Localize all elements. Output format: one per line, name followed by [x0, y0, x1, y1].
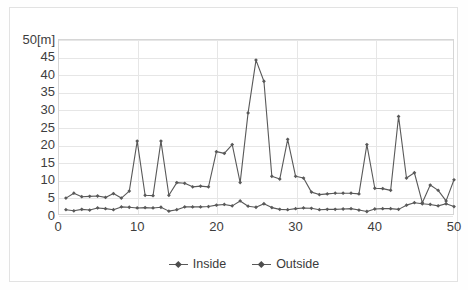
data-point-marker [88, 194, 92, 198]
data-point-marker [333, 191, 337, 195]
x-tick-label: 30 [288, 220, 302, 233]
data-point-marker [80, 195, 84, 199]
data-point-marker [436, 204, 440, 208]
data-point-marker [365, 143, 369, 147]
data-point-marker [135, 206, 139, 210]
data-point-marker [294, 207, 298, 211]
data-point-marker [270, 206, 274, 210]
series-line [66, 60, 454, 203]
chart-frame: 05101520253035404550[m] 01020304050 Insi… [9, 7, 458, 282]
legend-marker-outside-icon [252, 260, 271, 269]
plot-area-wrapper [58, 39, 454, 215]
data-point-marker [262, 79, 266, 83]
data-point-marker [357, 208, 361, 212]
data-point-marker [270, 174, 274, 178]
data-point-marker [310, 206, 314, 210]
data-point-marker [72, 209, 76, 213]
data-point-marker [278, 207, 282, 211]
data-point-marker [112, 208, 116, 212]
data-point-marker [278, 177, 282, 181]
data-point-marker [199, 184, 203, 188]
data-point-marker [207, 185, 211, 189]
data-point-marker [88, 208, 92, 212]
data-point-marker [262, 202, 266, 206]
series-lines [58, 39, 454, 215]
data-point-marker [127, 205, 131, 209]
data-point-marker [207, 205, 211, 209]
data-point-marker [389, 207, 393, 211]
y-tick-label: 40 [41, 68, 55, 81]
series-inside [64, 199, 456, 213]
data-point-marker [317, 208, 321, 212]
data-point-marker [215, 203, 219, 207]
data-point-marker [373, 207, 377, 211]
data-point-marker [286, 208, 290, 212]
data-point-marker [254, 58, 258, 62]
y-tick-label: 50[m] [22, 33, 55, 46]
data-point-marker [325, 207, 329, 211]
data-point-marker [357, 192, 361, 196]
data-point-marker [428, 203, 432, 207]
data-point-marker [452, 178, 456, 182]
data-point-marker [151, 194, 155, 198]
y-tick-label: 45 [41, 50, 55, 63]
data-point-marker [104, 207, 108, 211]
y-tick-label: 15 [41, 156, 55, 169]
data-point-marker [183, 205, 187, 209]
data-point-marker [286, 137, 290, 141]
data-point-marker [238, 181, 242, 185]
y-tick-label: 10 [41, 173, 55, 186]
data-point-marker [389, 188, 393, 192]
data-point-marker [349, 207, 353, 211]
data-point-marker [135, 139, 139, 143]
data-point-marker [64, 208, 68, 212]
y-tick-label: 25 [41, 121, 55, 134]
data-point-marker [96, 206, 100, 210]
data-point-marker [373, 186, 377, 190]
y-tick-label: 5 [48, 191, 55, 204]
data-point-marker [302, 206, 306, 210]
data-point-marker [215, 150, 219, 154]
data-point-marker [119, 205, 123, 209]
x-tick-label: 20 [209, 220, 223, 233]
data-point-marker [381, 187, 385, 191]
data-point-marker [254, 205, 258, 209]
legend-label-inside: Inside [193, 258, 226, 271]
legend-item-outside[interactable]: Outside [252, 258, 319, 271]
legend-item-inside[interactable]: Inside [169, 258, 226, 271]
y-axis-labels: 05101520253035404550[m] [10, 8, 58, 246]
data-point-marker [191, 185, 195, 189]
series-outside [64, 58, 456, 204]
data-point-marker [341, 191, 345, 195]
y-tick-label: 20 [41, 138, 55, 151]
data-point-marker [405, 203, 409, 207]
data-point-marker [191, 205, 195, 209]
data-point-marker [349, 191, 353, 195]
data-point-marker [365, 210, 369, 214]
data-point-marker [413, 201, 417, 205]
legend-marker-inside-icon [169, 260, 188, 269]
data-point-marker [246, 111, 250, 115]
x-tick-label: 10 [130, 220, 144, 233]
data-point-marker [452, 205, 456, 209]
data-point-marker [175, 208, 179, 212]
data-point-marker [143, 193, 147, 197]
data-point-marker [341, 207, 345, 211]
data-point-marker [294, 174, 298, 178]
data-point-marker [159, 139, 163, 143]
chart-container: 05101520253035404550[m] 01020304050 Insi… [0, 0, 468, 290]
x-tick-label: 0 [54, 220, 61, 233]
data-point-marker [199, 205, 203, 209]
y-tick-label: 35 [41, 85, 55, 98]
y-tick-label: 30 [41, 103, 55, 116]
data-point-marker [104, 196, 108, 200]
chart-legend: Inside Outside [10, 254, 468, 274]
series-line [66, 201, 454, 212]
data-point-marker [222, 203, 226, 207]
x-tick-label: 50 [447, 220, 461, 233]
data-point-marker [183, 181, 187, 185]
x-axis-labels: 01020304050 [10, 220, 458, 242]
data-point-marker [397, 115, 401, 119]
data-point-marker [381, 207, 385, 211]
data-point-marker [333, 207, 337, 211]
